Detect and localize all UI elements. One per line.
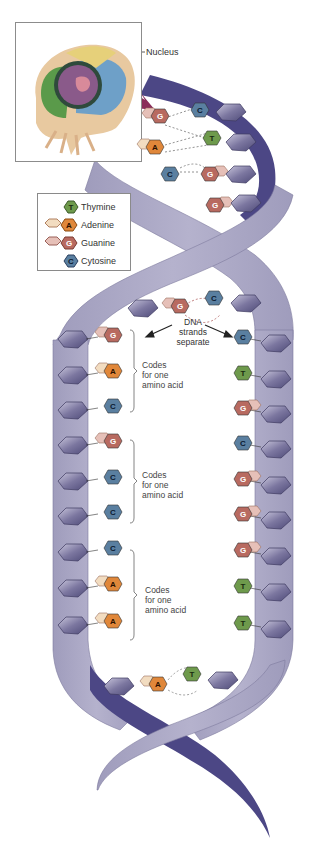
sugar-phosphate-icon (58, 367, 88, 384)
cytosine-base-icon: C (104, 505, 122, 519)
svg-text:G: G (240, 510, 246, 519)
adenine-base-icon: A (95, 613, 122, 628)
nucleotide-layer: GACGCCCAACTGCGGGTTGCGCATCGGAT (0, 0, 314, 845)
svg-text:C: C (240, 333, 246, 342)
svg-text:A: A (152, 143, 158, 152)
svg-text:G: G (110, 437, 116, 446)
svg-text:G: G (212, 201, 218, 210)
sugar-phosphate-icon (261, 477, 291, 494)
svg-text:C: C (110, 402, 116, 411)
sugar-phosphate-icon (261, 512, 291, 529)
sugar-phosphate-icon (261, 335, 291, 352)
sugar-phosphate-icon (104, 678, 134, 695)
svg-text:C: C (211, 294, 217, 303)
cytosine-base-icon: C (104, 399, 122, 413)
svg-text:A: A (155, 680, 161, 689)
guanine-base-icon: G (234, 542, 261, 557)
sugar-phosphate-icon (261, 621, 291, 638)
guanine-base-icon: G (142, 108, 169, 123)
adenine-base-icon: A (137, 139, 164, 154)
sugar-phosphate-icon (58, 580, 88, 597)
sugar-phosphate-icon (261, 371, 291, 388)
svg-text:A: A (110, 367, 116, 376)
cytosine-base-icon: C (234, 330, 252, 344)
sugar-phosphate-icon (226, 134, 256, 151)
svg-text:T: T (241, 619, 246, 628)
cytosine-base-icon: C (104, 470, 122, 484)
svg-text:G: G (240, 404, 246, 413)
svg-text:G: G (110, 331, 116, 340)
svg-text:G: G (157, 112, 163, 121)
sugar-phosphate-icon (231, 195, 261, 212)
sugar-phosphate-icon (261, 406, 291, 423)
sugar-phosphate-icon (226, 166, 256, 183)
cytosine-base-icon: C (161, 167, 179, 181)
sugar-phosphate-icon (58, 508, 88, 525)
sugar-phosphate-icon (128, 300, 158, 317)
guanine-base-icon: G (162, 298, 189, 313)
svg-text:A: A (110, 580, 116, 589)
guanine-base-icon: G (95, 327, 122, 342)
sugar-phosphate-icon (58, 544, 88, 561)
sugar-phosphate-icon (58, 617, 88, 634)
adenine-base-icon: A (95, 363, 122, 378)
thymine-base-icon: T (234, 579, 252, 593)
sugar-phosphate-icon (58, 437, 88, 454)
cytosine-base-icon: C (104, 541, 122, 555)
guanine-base-icon: G (201, 166, 228, 181)
thymine-base-icon: T (234, 366, 252, 380)
sugar-phosphate-icon (208, 672, 238, 689)
svg-text:C: C (240, 439, 246, 448)
svg-text:C: C (197, 106, 203, 115)
dna-diagram: Nucleus T Thymine A Adenine G Guanine C … (0, 0, 314, 845)
thymine-base-icon: T (234, 616, 252, 630)
sugar-phosphate-icon (261, 548, 291, 565)
sugar-phosphate-icon (231, 295, 261, 312)
svg-text:C: C (110, 508, 116, 517)
thymine-base-icon: T (183, 667, 201, 681)
sugar-phosphate-icon (216, 104, 246, 121)
adenine-base-icon: A (140, 676, 167, 691)
sugar-phosphate-icon (261, 441, 291, 458)
svg-text:G: G (177, 302, 183, 311)
svg-text:T: T (190, 670, 195, 679)
sugar-phosphate-icon (58, 331, 88, 348)
guanine-base-icon: G (95, 433, 122, 448)
svg-text:A: A (110, 617, 116, 626)
sugar-phosphate-icon (261, 584, 291, 601)
svg-text:T: T (210, 134, 215, 143)
guanine-base-icon: G (234, 471, 261, 486)
thymine-base-icon: T (203, 131, 221, 145)
guanine-base-icon: G (206, 197, 233, 212)
svg-text:T: T (241, 582, 246, 591)
svg-text:G: G (240, 475, 246, 484)
svg-text:T: T (241, 369, 246, 378)
svg-text:G: G (207, 170, 213, 179)
svg-text:G: G (240, 546, 246, 555)
adenine-base-icon: A (95, 576, 122, 591)
svg-text:C: C (167, 170, 173, 179)
cytosine-base-icon: C (191, 103, 209, 117)
guanine-base-icon: G (234, 506, 261, 521)
sugar-phosphate-icon (58, 402, 88, 419)
guanine-base-icon: G (234, 400, 261, 415)
cytosine-base-icon: C (205, 291, 223, 305)
svg-text:C: C (110, 544, 116, 553)
svg-text:C: C (110, 473, 116, 482)
sugar-phosphate-icon (58, 473, 88, 490)
cytosine-base-icon: C (234, 436, 252, 450)
